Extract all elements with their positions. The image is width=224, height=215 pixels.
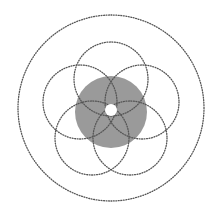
center-hole (105, 104, 117, 116)
geometric-diagram (0, 0, 224, 215)
